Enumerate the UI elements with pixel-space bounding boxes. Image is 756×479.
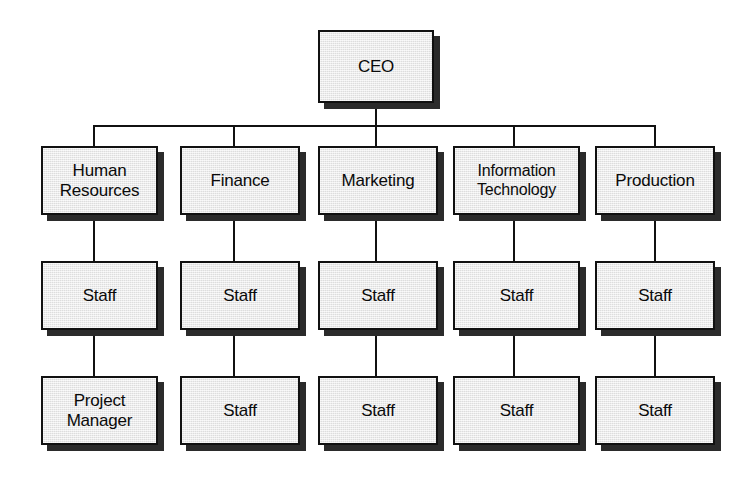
node-human-resources[interactable]: Human Resources (41, 146, 158, 215)
connector-it-to-staff (513, 215, 515, 261)
node-ceo-label: CEO (354, 57, 398, 77)
node-production[interactable]: Production (595, 146, 715, 215)
node-information-technology[interactable]: Information Technology (453, 146, 580, 215)
node-finance[interactable]: Finance (180, 146, 300, 215)
node-it-staff-2[interactable]: Staff (453, 376, 580, 445)
connector-production-to-staff (654, 215, 656, 261)
org-chart-canvas: CEO Human Resources Finance Marketing In… (0, 0, 756, 479)
node-production-staff-label: Staff (634, 286, 676, 306)
connector-bus-to-marketing (375, 125, 377, 146)
connector-it-staff-to-staff2 (513, 330, 515, 376)
connector-finance-to-staff (233, 215, 235, 261)
node-marketing-label: Marketing (338, 171, 419, 191)
connector-hr-to-staff (93, 215, 95, 261)
connector-bus-to-finance (233, 125, 235, 146)
connector-bus-to-production (654, 125, 656, 146)
node-marketing-staff-2-label: Staff (357, 401, 399, 421)
node-hr-project-manager-label: Project Manager (63, 391, 137, 431)
node-production-label: Production (611, 171, 698, 191)
node-production-staff[interactable]: Staff (595, 261, 715, 330)
node-finance-label: Finance (206, 171, 273, 191)
node-ceo[interactable]: CEO (318, 30, 434, 103)
node-finance-staff[interactable]: Staff (180, 261, 300, 330)
node-it-staff-label: Staff (496, 286, 538, 306)
node-marketing-staff[interactable]: Staff (318, 261, 438, 330)
connector-finance-staff-to-staff2 (233, 330, 235, 376)
node-it-staff-2-label: Staff (496, 401, 538, 421)
node-it-staff[interactable]: Staff (453, 261, 580, 330)
connector-production-staff-to-staff2 (654, 330, 656, 376)
node-marketing-staff-label: Staff (357, 286, 399, 306)
node-marketing-staff-2[interactable]: Staff (318, 376, 438, 445)
node-hr-staff-label: Staff (79, 286, 121, 306)
node-human-resources-label: Human Resources (56, 161, 143, 201)
connector-marketing-to-staff (375, 215, 377, 261)
node-marketing[interactable]: Marketing (318, 146, 438, 215)
connector-hr-staff-to-project-manager (93, 330, 95, 376)
node-finance-staff-2-label: Staff (219, 401, 261, 421)
connector-marketing-staff-to-staff2 (375, 330, 377, 376)
node-finance-staff-2[interactable]: Staff (180, 376, 300, 445)
node-hr-staff[interactable]: Staff (41, 261, 158, 330)
connector-ceo-stem (375, 103, 377, 127)
node-hr-project-manager[interactable]: Project Manager (41, 376, 158, 445)
node-information-technology-label: Information Technology (473, 162, 560, 199)
connector-bus-to-hr (93, 125, 95, 146)
node-finance-staff-label: Staff (219, 286, 261, 306)
node-production-staff-2[interactable]: Staff (595, 376, 715, 445)
node-production-staff-2-label: Staff (634, 401, 676, 421)
connector-bus-to-it (513, 125, 515, 146)
